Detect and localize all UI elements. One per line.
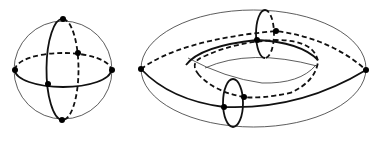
torus-hole-upper-edge (188, 58, 316, 83)
sphere-meridian-front (46, 19, 63, 120)
torus-point-bottom-back (241, 94, 247, 100)
sphere-point-front (45, 81, 51, 87)
sphere-equator-back (15, 53, 111, 70)
sphere-point-right (109, 67, 115, 73)
torus-hole-lower-edge (205, 57, 317, 68)
torus-meridian-bottom-back (233, 79, 243, 127)
torus-point-top-front (254, 37, 260, 43)
sphere-meridian-back (62, 19, 79, 120)
sphere-point-back (75, 50, 81, 56)
sphere-point-bottom (59, 117, 65, 123)
torus-meridian-bottom-front (223, 79, 233, 127)
torus-point-top-back (273, 28, 279, 34)
sphere (12, 16, 115, 123)
torus-meridian-top-back (265, 10, 274, 58)
torus-point-right (363, 67, 369, 73)
torus-longitude-front (141, 69, 366, 107)
torus (138, 10, 369, 127)
sphere-point-left (12, 67, 18, 73)
sphere-point-top (60, 16, 66, 22)
torus-outer-outline (141, 10, 366, 127)
diagram-canvas (0, 0, 380, 141)
torus-longitude-back (141, 31, 366, 70)
sphere-equator-front (15, 70, 111, 87)
torus-point-bottom-front (221, 104, 227, 110)
torus-point-left (138, 66, 144, 72)
torus-meridian-top-front (256, 10, 265, 58)
sphere-outline (14, 21, 112, 119)
